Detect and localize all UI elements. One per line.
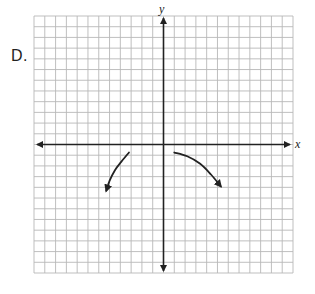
right-branch-curve [174,153,220,187]
axes [37,18,290,271]
x-axis-label: x [295,137,300,152]
y-axis-label: y [159,2,164,17]
coordinate-plane [0,0,315,294]
graph-figure: D. y x [0,0,315,294]
